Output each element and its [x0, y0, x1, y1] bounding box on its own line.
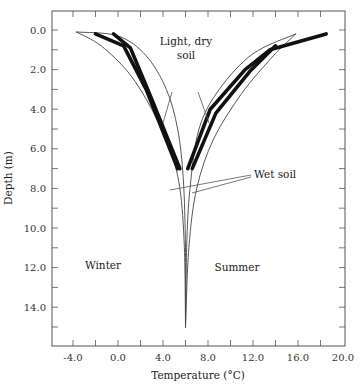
depth-temperature-chart: -4.00.04.08.012.016.020.00.02.04.06.08.0…	[0, 0, 364, 386]
y-tick-label: 0.0	[30, 25, 46, 36]
wet-soil-leader-right	[192, 177, 251, 193]
x-axis-label: Temperature (°C)	[151, 369, 245, 381]
x-tick-label: -4.0	[63, 352, 82, 363]
y-tick-label: 10.0	[24, 223, 46, 234]
envelope-curve	[186, 34, 296, 327]
y-tick-label: 8.0	[30, 183, 46, 194]
annotation-wet-soil: Wet soil	[254, 168, 297, 180]
y-axis-label: Depth (m)	[2, 151, 14, 205]
annotation-light-dry-soil-line1: Light, dry	[160, 35, 212, 47]
envelope-curve	[76, 32, 185, 327]
measured-profile-line	[96, 34, 178, 169]
y-tick-label: 14.0	[24, 302, 46, 313]
envelope-curve	[186, 34, 296, 327]
x-tick-label: 12.0	[242, 352, 264, 363]
x-tick-label: 16.0	[287, 352, 309, 363]
dry-soil-leader-right	[198, 92, 209, 123]
y-tick-label: 12.0	[24, 262, 46, 273]
x-tick-label: 20.0	[332, 352, 354, 363]
tick-labels: -4.00.04.08.012.016.020.00.02.04.06.08.0…	[24, 25, 354, 364]
x-tick-label: 0.0	[110, 352, 126, 363]
y-tick-label: 4.0	[30, 104, 46, 115]
measured-profile-line	[188, 34, 326, 169]
y-tick-label: 2.0	[30, 64, 46, 75]
measured-profile-line	[114, 34, 180, 169]
dry-soil-leader-left	[163, 92, 172, 123]
axis-ticks	[52, 11, 345, 346]
x-tick-label: 8.0	[200, 352, 216, 363]
measured-profile-line	[192, 46, 275, 169]
annotation-light-dry-soil-line2: soil	[177, 49, 196, 61]
annotation-winter: Winter	[85, 259, 122, 271]
annotation-summer: Summer	[214, 261, 260, 273]
plot-frame	[52, 11, 345, 346]
y-tick-label: 6.0	[30, 143, 46, 154]
x-tick-label: 4.0	[155, 352, 171, 363]
